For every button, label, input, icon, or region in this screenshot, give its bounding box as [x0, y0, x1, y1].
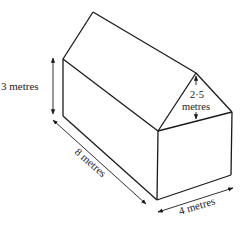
roof-eave-left — [63, 59, 158, 131]
front-left-vertical-edge — [157, 131, 158, 200]
length-label: 8 metres — [73, 145, 109, 179]
wall-height-label: 3 metres — [1, 80, 39, 92]
bottom-front-edge — [157, 175, 231, 200]
house-prism-diagram: 3 metres 8 metres 4 metres 2·5 metres — [0, 0, 245, 230]
roof-ridge — [93, 12, 196, 73]
roof-height-value: 2·5 — [190, 89, 204, 100]
roof-height-unit: metres — [182, 101, 210, 112]
front-right-vertical-edge — [231, 112, 232, 175]
width-label: 4 metres — [177, 194, 216, 216]
back-gable-left-edge — [63, 12, 93, 59]
diagram-canvas: 3 metres 8 metres 4 metres 2·5 metres — [0, 0, 245, 230]
